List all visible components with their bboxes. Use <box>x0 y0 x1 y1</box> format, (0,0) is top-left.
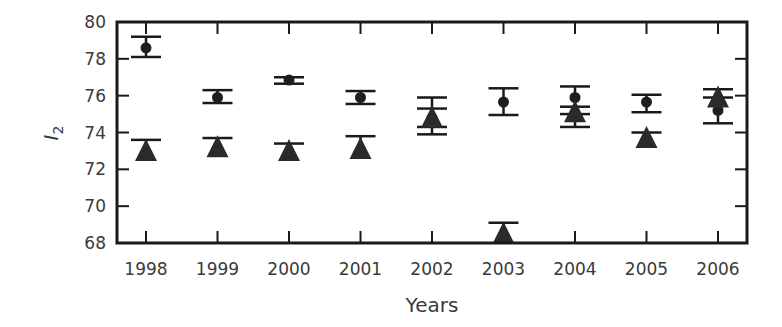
triangle-marker <box>493 222 515 244</box>
x-tick-label: 2000 <box>267 259 310 279</box>
triangle-marker <box>278 139 300 161</box>
x-tick-label: 1998 <box>124 259 167 279</box>
y-tick-label: 74 <box>84 123 106 143</box>
svg-text:I2: I2 <box>39 126 66 141</box>
y-tick-label: 70 <box>84 196 106 216</box>
y-axis-label-sub: 2 <box>50 126 66 135</box>
y-axis-label: I2 <box>39 126 66 141</box>
y-tick-labels: 68707274767880 <box>84 12 106 253</box>
series-triangles <box>131 86 733 244</box>
triangle-marker <box>350 137 372 159</box>
triangle-marker <box>135 139 157 161</box>
x-tick-label: 1999 <box>196 259 239 279</box>
x-tick-label: 2004 <box>553 259 596 279</box>
circle-marker <box>141 42 152 53</box>
triangle-marker <box>636 126 658 148</box>
x-tick-label: 2005 <box>625 259 668 279</box>
x-axis-label: Years <box>405 293 459 317</box>
y-tick-label: 76 <box>84 86 106 106</box>
x-tick-label: 2003 <box>482 259 525 279</box>
circle-marker <box>284 75 295 86</box>
triangle-marker <box>564 100 586 122</box>
chart: 68707274767880 1998199920002001200220032… <box>0 0 782 327</box>
x-tick-labels: 199819992000200120022003200420052006 <box>124 259 739 279</box>
y-tick-label: 78 <box>84 49 106 69</box>
y-tick-label: 68 <box>84 233 106 253</box>
circle-marker <box>212 92 223 103</box>
x-tick-label: 2002 <box>410 259 453 279</box>
y-tick-label: 80 <box>84 12 106 32</box>
circle-marker <box>498 97 509 108</box>
circle-marker <box>641 97 652 108</box>
x-tick-label: 2006 <box>696 259 739 279</box>
circle-marker <box>355 92 366 103</box>
x-tick-label: 2001 <box>339 259 382 279</box>
data-points <box>131 37 733 244</box>
y-tick-label: 72 <box>84 159 106 179</box>
